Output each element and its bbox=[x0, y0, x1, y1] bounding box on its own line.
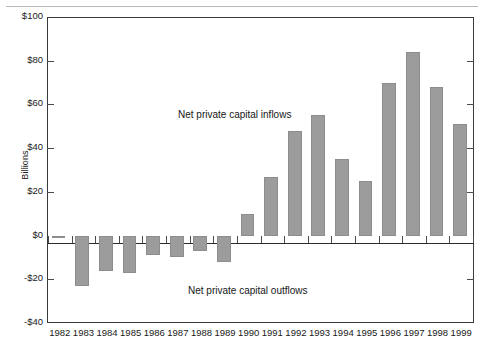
y-axis-title: Billions bbox=[20, 120, 30, 210]
y-tick-label: $60 bbox=[0, 97, 43, 108]
bar-slot bbox=[213, 18, 237, 322]
x-tick-mark bbox=[449, 236, 450, 243]
x-tick-label: 1982 bbox=[48, 327, 72, 338]
bar-slot bbox=[142, 18, 166, 322]
x-tick-mark bbox=[261, 236, 262, 243]
bar bbox=[311, 115, 325, 235]
bar bbox=[453, 124, 467, 235]
x-axis-labels: 1982198319841985198619871988198919901991… bbox=[48, 327, 473, 343]
bar bbox=[170, 236, 184, 258]
x-tick-label: 1997 bbox=[402, 327, 426, 338]
x-tick-mark bbox=[331, 236, 332, 243]
bar bbox=[52, 236, 66, 238]
x-tick-mark bbox=[95, 236, 96, 243]
annotation-outflows: Net private capital outflows bbox=[188, 285, 308, 296]
bar-slot bbox=[402, 18, 426, 322]
bar-slot bbox=[426, 18, 450, 322]
x-tick-label: 1985 bbox=[119, 327, 143, 338]
bar-slot bbox=[95, 18, 119, 322]
bar-slot bbox=[190, 18, 214, 322]
bar bbox=[264, 177, 278, 236]
y-tick-label: -$20 bbox=[0, 272, 43, 283]
x-tick-label: 1990 bbox=[237, 327, 261, 338]
bar-slot bbox=[308, 18, 332, 322]
bars-layer bbox=[48, 18, 473, 322]
annotation-inflows: Net private capital inflows bbox=[178, 109, 291, 120]
bar bbox=[241, 214, 255, 236]
bar bbox=[99, 236, 113, 271]
bar bbox=[335, 159, 349, 236]
x-tick-mark bbox=[237, 236, 238, 243]
bar-slot bbox=[119, 18, 143, 322]
x-tick-label: 1996 bbox=[379, 327, 403, 338]
x-tick-label: 1988 bbox=[190, 327, 214, 338]
bar-slot bbox=[284, 18, 308, 322]
x-tick-mark bbox=[308, 236, 309, 243]
x-tick-mark bbox=[142, 236, 143, 243]
x-tick-label: 1989 bbox=[213, 327, 237, 338]
bar-slot bbox=[166, 18, 190, 322]
x-tick-mark bbox=[48, 236, 49, 243]
bar bbox=[146, 236, 160, 256]
x-tick-label: 1991 bbox=[261, 327, 285, 338]
y-tick-label: $0 bbox=[0, 229, 43, 240]
x-tick-mark bbox=[426, 236, 427, 243]
y-tick-label: $80 bbox=[0, 54, 43, 65]
bar-slot bbox=[449, 18, 473, 322]
bar bbox=[288, 131, 302, 236]
x-tick-label: 1986 bbox=[142, 327, 166, 338]
x-tick-label: 1983 bbox=[72, 327, 96, 338]
y-tick-label: $20 bbox=[0, 185, 43, 196]
x-tick-mark bbox=[119, 236, 120, 243]
x-tick-mark bbox=[72, 236, 73, 243]
bar bbox=[193, 236, 207, 251]
bar-chart-figure: Billions $100$80$60$40$20$0-$20-$40 1982… bbox=[0, 0, 485, 353]
x-tick-label: 1994 bbox=[331, 327, 355, 338]
x-tick-label: 1992 bbox=[284, 327, 308, 338]
bar bbox=[382, 83, 396, 236]
y-tick-label: -$40 bbox=[0, 316, 43, 327]
x-tick-mark bbox=[379, 236, 380, 243]
bar-slot bbox=[48, 18, 72, 322]
bar bbox=[359, 181, 373, 236]
x-tick-label: 1995 bbox=[355, 327, 379, 338]
bar-slot bbox=[237, 18, 261, 322]
bar bbox=[75, 236, 89, 286]
x-tick-mark bbox=[402, 236, 403, 243]
x-tick-label: 1993 bbox=[308, 327, 332, 338]
bar bbox=[406, 52, 420, 236]
x-tick-mark bbox=[190, 236, 191, 243]
x-tick-label: 1998 bbox=[426, 327, 450, 338]
bar-slot bbox=[355, 18, 379, 322]
x-tick-label: 1987 bbox=[166, 327, 190, 338]
y-tick-label: $100 bbox=[0, 10, 43, 21]
x-tick-mark bbox=[473, 236, 474, 243]
bar bbox=[123, 236, 137, 273]
x-tick-mark bbox=[355, 236, 356, 243]
x-tick-mark bbox=[284, 236, 285, 243]
x-tick-label: 1999 bbox=[449, 327, 473, 338]
bar bbox=[217, 236, 231, 262]
bar-slot bbox=[331, 18, 355, 322]
bar-slot bbox=[379, 18, 403, 322]
bar-slot bbox=[72, 18, 96, 322]
x-tick-mark bbox=[166, 236, 167, 243]
x-tick-label: 1984 bbox=[95, 327, 119, 338]
bar bbox=[430, 87, 444, 236]
x-tick-mark bbox=[213, 236, 214, 243]
bar-slot bbox=[261, 18, 285, 322]
y-tick-label: $40 bbox=[0, 141, 43, 152]
